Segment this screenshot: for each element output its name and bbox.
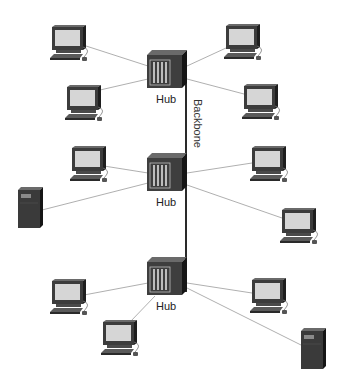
link-pc2-hub1 <box>187 48 226 66</box>
server-icon <box>301 328 326 369</box>
network-diagram <box>0 0 343 386</box>
link-pc5-hub2 <box>104 166 148 173</box>
backbone-label: Backbone <box>192 99 204 148</box>
link-pc6-hub2 <box>187 163 252 173</box>
link-pc10-hub3 <box>130 296 155 322</box>
link-server1-hub2 <box>42 183 148 210</box>
link-pc1-hub1 <box>83 45 148 66</box>
link-pc9-hub3 <box>187 283 252 293</box>
link-pc8-hub3 <box>84 283 148 295</box>
hub-label-2: Hub <box>156 196 176 208</box>
hub-icon <box>147 153 187 191</box>
hub-icon <box>147 50 187 88</box>
workstation-icon <box>280 208 318 244</box>
hub-label-1: Hub <box>156 93 176 105</box>
workstation-icon <box>250 146 288 182</box>
workstation-icon <box>242 84 280 120</box>
hub-icon <box>147 257 187 295</box>
link-pc4-hub1 <box>187 79 244 94</box>
workstation-icon <box>50 25 88 61</box>
workstation-icon <box>50 279 88 315</box>
hub-label-3: Hub <box>156 300 176 312</box>
workstation-icon <box>224 24 262 60</box>
workstation-icon <box>70 146 108 182</box>
workstation-icon <box>101 320 139 356</box>
link-pc7-hub2 <box>187 185 282 218</box>
workstation-icon <box>250 278 288 314</box>
workstation-icon <box>65 85 103 121</box>
server-icon <box>18 187 43 228</box>
link-pc3-hub1 <box>100 79 148 90</box>
